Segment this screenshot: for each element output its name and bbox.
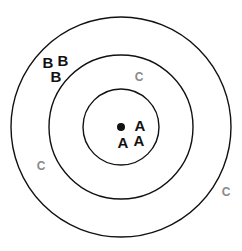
labels-group: AAABBBCCC [37, 52, 231, 199]
label-b: B [58, 52, 69, 69]
label-c: C [135, 70, 144, 84]
center-dot [117, 123, 125, 131]
label-a: A [118, 134, 129, 151]
label-a: A [134, 132, 145, 149]
label-c: C [222, 185, 231, 199]
target-diagram: AAABBBCCC [0, 0, 242, 251]
label-b: B [51, 68, 62, 85]
label-c: C [37, 159, 46, 173]
